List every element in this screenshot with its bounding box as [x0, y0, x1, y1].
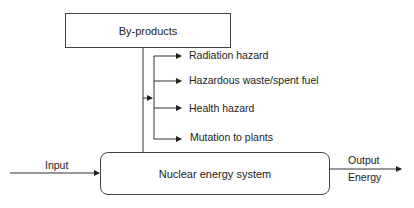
input-label: Input	[45, 159, 68, 171]
byproduct-item-mutation: Mutation to plants	[190, 131, 273, 143]
nuclear-energy-system-box: Nuclear energy system	[100, 152, 330, 195]
byproduct-item-waste: Hazardous waste/spent fuel	[189, 74, 319, 86]
byproduct-item-radiation: Radiation hazard	[189, 49, 268, 61]
energy-label: Energy	[348, 171, 381, 183]
byproducts-box: By-products	[65, 13, 231, 48]
byproducts-label: By-products	[119, 25, 178, 37]
byproduct-item-health: Health hazard	[189, 102, 254, 114]
system-label: Nuclear energy system	[159, 168, 272, 180]
output-label: Output	[348, 154, 380, 166]
